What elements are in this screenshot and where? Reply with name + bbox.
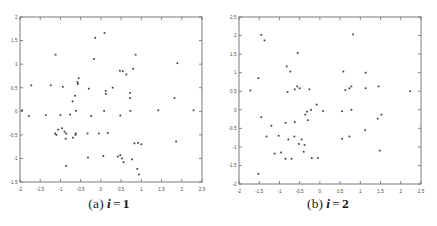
data-point — [138, 174, 140, 176]
data-point — [65, 165, 67, 167]
caption-b: (b)i=2 — [219, 196, 437, 212]
data-point — [317, 157, 319, 159]
data-point — [294, 121, 296, 123]
data-point — [157, 109, 159, 111]
data-point — [90, 115, 92, 117]
data-point — [126, 74, 128, 76]
x-tick-label: -1.5 — [255, 189, 263, 194]
data-point — [112, 87, 114, 89]
data-point — [131, 159, 133, 161]
data-point — [117, 156, 119, 158]
x-tick-label: 2.5 — [418, 189, 425, 194]
data-point — [343, 71, 345, 73]
data-point — [304, 114, 306, 116]
data-point — [123, 161, 125, 163]
data-point — [351, 86, 353, 88]
x-tick-label: -0.5 — [296, 189, 304, 194]
data-point — [60, 114, 62, 116]
y-tick-label: 1 — [15, 62, 18, 67]
scatter-plot-b-svg: -2-1.5-1-0.500.511.522.5-2-1.5-1-0.500.5… — [219, 0, 437, 196]
data-point — [349, 87, 351, 89]
data-point — [137, 142, 139, 144]
figure-container: -2-1.5-1-0.500.511.522.5-1.5-1-0.500.511… — [0, 0, 437, 226]
data-point — [365, 87, 367, 89]
x-tick-label: 2.5 — [199, 187, 206, 192]
data-point — [316, 104, 318, 106]
panel-b: -2-1.5-1-0.500.511.522.5-2-1.5-1-0.500.5… — [219, 0, 437, 226]
data-point — [278, 135, 280, 137]
data-point — [50, 85, 52, 87]
data-point — [69, 114, 71, 116]
data-point — [304, 144, 306, 146]
scatter-plot-a: -2-1.5-1-0.500.511.522.5-1.5-1-0.500.511… — [0, 0, 218, 196]
data-point — [94, 37, 96, 39]
data-point — [119, 70, 121, 72]
data-point — [299, 87, 301, 89]
data-point — [298, 143, 300, 145]
caption-b-index: (b) — [307, 196, 323, 211]
data-point — [134, 142, 136, 144]
data-point — [105, 93, 107, 95]
y-tick-label: -1.5 — [229, 163, 237, 168]
data-point — [87, 157, 89, 159]
caption-a: (a)i=1 — [0, 196, 218, 212]
data-point — [258, 77, 260, 79]
data-points — [249, 34, 410, 175]
data-point — [260, 34, 262, 36]
data-point — [103, 110, 105, 112]
data-point — [74, 95, 76, 97]
data-point — [264, 40, 266, 42]
x-tick-label: 1.5 — [377, 189, 384, 194]
data-point — [65, 138, 67, 140]
y-tick-label: 0.5 — [230, 89, 237, 94]
data-point — [21, 109, 23, 111]
data-point — [294, 89, 296, 91]
data-point — [287, 139, 289, 141]
x-tick-label: 2 — [399, 189, 402, 194]
data-point — [30, 85, 32, 87]
x-tick-label: 1 — [359, 189, 362, 194]
data-point — [290, 71, 292, 73]
data-point — [271, 125, 273, 127]
data-point — [77, 81, 79, 83]
data-point — [365, 72, 367, 74]
data-point — [62, 86, 64, 88]
y-tick-label: -1.5 — [10, 180, 18, 185]
panel-a: -2-1.5-1-0.500.511.522.5-1.5-1-0.500.511… — [0, 0, 218, 226]
data-point — [341, 110, 343, 112]
data-point — [140, 143, 142, 145]
data-point — [249, 90, 251, 92]
data-point — [119, 154, 121, 156]
data-point — [260, 116, 262, 118]
data-point — [56, 134, 58, 136]
data-point — [294, 136, 296, 138]
data-point — [132, 68, 134, 70]
data-point — [55, 54, 57, 56]
y-tick-label: -1 — [232, 145, 237, 150]
data-point — [266, 136, 268, 138]
data-point — [258, 173, 260, 175]
scatter-plot-a-svg: -2-1.5-1-0.500.511.522.5-1.5-1-0.500.511… — [0, 0, 218, 196]
data-point — [65, 133, 67, 135]
caption-a-equals: = — [111, 196, 123, 211]
data-point — [364, 129, 366, 131]
y-tick-label: 1.5 — [230, 52, 237, 57]
data-point — [129, 92, 131, 94]
data-point — [174, 97, 176, 99]
data-point — [78, 77, 80, 79]
x-tick-label: 0.5 — [337, 189, 344, 194]
caption-a-variable: i — [104, 196, 111, 211]
data-point — [28, 115, 30, 117]
data-point — [286, 66, 288, 68]
data-point — [87, 133, 89, 135]
data-point — [378, 86, 380, 88]
data-point — [107, 132, 109, 134]
data-point — [377, 118, 379, 120]
data-point — [351, 109, 353, 111]
y-tick-label: -0.5 — [10, 133, 18, 138]
x-tick-label: -1 — [277, 189, 282, 194]
x-tick-label: -0.5 — [77, 187, 85, 192]
y-tick-label: 0 — [15, 109, 18, 114]
y-tick-label: -1 — [13, 156, 18, 161]
y-tick-label: 1 — [234, 70, 237, 75]
